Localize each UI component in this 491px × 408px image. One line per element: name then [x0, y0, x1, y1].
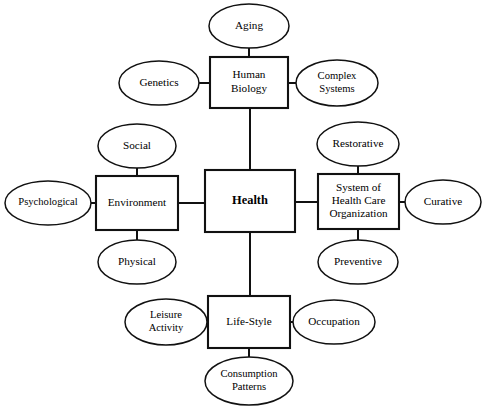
node-box-human-biology-label: Human	[233, 68, 266, 80]
node-box-system-of-health-care-organization-label: Health Care	[332, 194, 386, 206]
node-ellipse-consumption-patterns-label: Patterns	[232, 381, 266, 392]
health-field-concept-diagram: HealthHumanBiologyEnvironmentSystem ofHe…	[0, 0, 491, 408]
node-ellipse-occupation-label: Occupation	[308, 315, 360, 327]
node-ellipse-curative-label: Curative	[424, 195, 463, 207]
node-ellipse-restorative-label: Restorative	[333, 137, 384, 149]
node-box-environment-label: Environment	[108, 196, 167, 208]
node-ellipse-leisure-activity-label: Leisure	[150, 309, 182, 320]
node-ellipse-physical-label: Physical	[118, 255, 156, 267]
node-box-human-biology-label: Biology	[231, 82, 267, 94]
node-box-system-of-health-care-organization-label: Organization	[329, 207, 388, 219]
node-box-health-label: Health	[232, 193, 268, 207]
node-ellipse-aging-label: Aging	[235, 19, 263, 31]
node-ellipse-leisure-activity-label: Activity	[149, 322, 184, 333]
node-ellipse-consumption-patterns-label: Consumption	[220, 368, 278, 379]
node-ellipse-preventive-label: Preventive	[334, 255, 382, 267]
node-ellipse-psychological-label: Psychological	[18, 196, 77, 207]
node-ellipse-genetics-label: Genetics	[139, 76, 178, 88]
node-layer: HealthHumanBiologyEnvironmentSystem ofHe…	[5, 4, 481, 405]
concept-map-canvas: HealthHumanBiologyEnvironmentSystem ofHe…	[0, 0, 491, 408]
node-box-system-of-health-care-organization-label: System of	[336, 181, 381, 193]
node-box-life-style-label: Life-Style	[226, 315, 271, 327]
node-ellipse-complex-systems-label: Complex	[318, 70, 358, 81]
node-ellipse-social-label: Social	[123, 139, 151, 151]
node-ellipse-complex-systems-label: Systems	[319, 83, 354, 94]
